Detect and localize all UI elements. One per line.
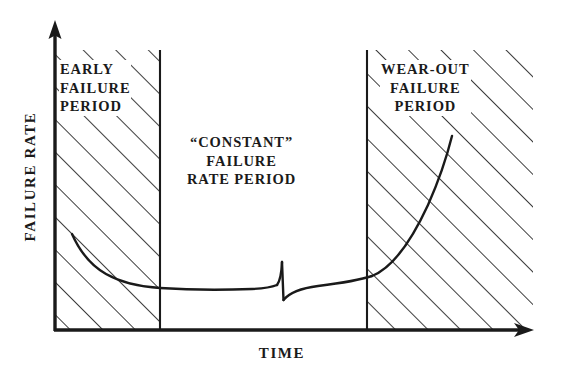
chart-canvas: [0, 0, 564, 386]
bathtub-curve-figure: EARLY FAILURE PERIOD “CONSTANT” FAILURE …: [0, 0, 564, 386]
constant-label-line-2: FAILURE: [187, 152, 296, 171]
y-axis-label: FAILURE RATE: [22, 77, 39, 277]
wearout-label-line-2: FAILURE: [381, 79, 470, 98]
early-failure-period-label: EARLY FAILURE PERIOD: [59, 60, 131, 116]
constant-failure-rate-period-label: “CONSTANT” FAILURE RATE PERIOD: [186, 133, 297, 189]
constant-label-line-1: “CONSTANT”: [187, 133, 296, 152]
wearout-label-line-1: WEAR-OUT: [381, 60, 470, 79]
x-axis-label: TIME: [0, 345, 564, 362]
early-label-line-1: EARLY: [60, 60, 130, 79]
early-label-line-2: FAILURE: [60, 79, 130, 98]
constant-label-line-3: RATE PERIOD: [187, 170, 296, 189]
wearout-label-line-3: PERIOD: [381, 97, 470, 116]
early-label-line-3: PERIOD: [60, 97, 130, 116]
wearout-failure-period-label: WEAR-OUT FAILURE PERIOD: [380, 60, 471, 116]
